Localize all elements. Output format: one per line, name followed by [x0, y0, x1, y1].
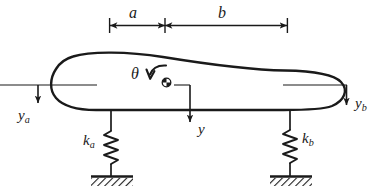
hatched-ground-icon-right: [270, 177, 312, 187]
y-label: y: [198, 122, 205, 137]
coil-spring-icon-right: [283, 130, 297, 163]
hatched-ground-icon-left: [91, 177, 133, 187]
ka-label-sub: a: [90, 139, 95, 150]
yb-label-main: y: [355, 95, 362, 111]
mechanics-figure: a b θ ya yb y ka kb: [0, 0, 384, 194]
ya-label-main: y: [18, 107, 25, 123]
coil-spring-icon-left: [104, 131, 118, 164]
center-of-mass-icon: [162, 78, 171, 87]
ka-label: ka: [83, 133, 95, 150]
yb-label-sub: b: [362, 102, 367, 113]
kb-label-main: k: [302, 130, 309, 146]
rigid-body-outline: [51, 53, 345, 110]
figure-svg: [0, 0, 384, 194]
dimension-label-a: a: [129, 5, 137, 21]
theta-label: θ: [131, 66, 139, 82]
spring-left-assembly: [91, 110, 133, 186]
ka-label-main: k: [83, 132, 90, 148]
yb-label: yb: [355, 96, 367, 113]
ya-label: ya: [18, 108, 30, 125]
kb-label-sub: b: [309, 137, 314, 148]
dimension-label-b: b: [218, 5, 226, 21]
kb-label: kb: [302, 131, 314, 148]
ya-label-sub: a: [25, 114, 30, 125]
